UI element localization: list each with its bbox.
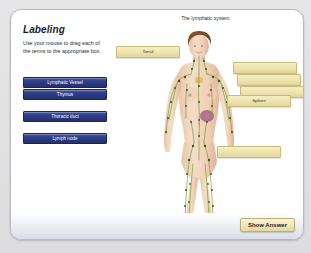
term-button-thoracic-duct[interactable]: Thoracic duct (23, 111, 107, 122)
term-button-thymus[interactable]: Thymus (23, 89, 107, 100)
illustration-caption: The lymphatic system. (116, 15, 296, 21)
term-button-lymph-node[interactable]: Lymph node (23, 133, 107, 144)
instruction-text: Use your mouse to drag each of the terms… (23, 39, 101, 56)
instruction-column: Labeling Use your mouse to drag each of … (23, 24, 107, 56)
tonsil-box[interactable]: Tonsil (116, 46, 180, 58)
lymphatic-system-figure (155, 28, 243, 233)
screenshot-stage: Labeling Use your mouse to drag each of … (0, 0, 311, 253)
answer-box-4[interactable] (217, 146, 281, 158)
term-button-lymphatic-vessel[interactable]: Lymphatic Vessel (23, 77, 107, 88)
spleen-box[interactable]: Spleen (227, 95, 291, 107)
female-body-illustration (155, 28, 243, 233)
answer-box-1[interactable] (233, 62, 297, 74)
page-title: Labeling (23, 24, 107, 35)
answer-box-2[interactable] (237, 74, 301, 86)
show-answer-button[interactable]: Show Answer (240, 218, 295, 232)
labeling-activity-panel: Labeling Use your mouse to drag each of … (10, 9, 304, 240)
